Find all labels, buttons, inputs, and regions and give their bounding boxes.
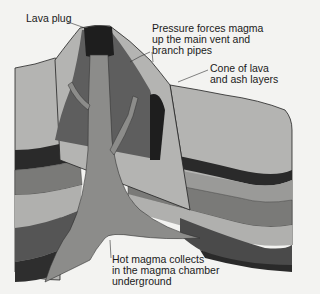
magma-chamber-label: Hot magma collects in the magma chamber … [112,254,219,287]
cone-label: Cone of lava and ash layers [210,63,278,85]
pressure-label: Pressure forces magma up the main vent a… [152,23,263,56]
lava-plug-label: Lava plug [26,13,72,24]
lava-plug [84,26,114,58]
